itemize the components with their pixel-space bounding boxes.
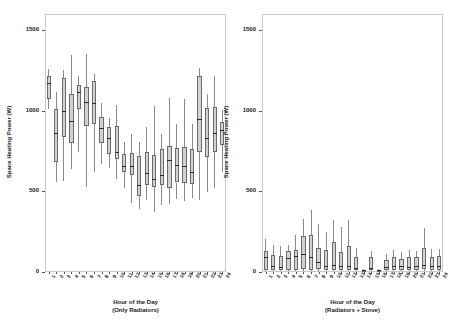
x-tick-label: 3 (282, 274, 289, 279)
x-tick-mark (288, 272, 289, 274)
box-plot-box (309, 235, 313, 270)
box-plot-median (279, 267, 283, 268)
x-tick-mark (379, 272, 380, 274)
whisker-upper (280, 246, 281, 256)
x-tick-mark (311, 272, 312, 274)
x-tick-mark (334, 272, 335, 274)
x-tick-mark (266, 272, 267, 274)
whisker-lower (326, 270, 327, 272)
box-plot-median (271, 266, 275, 267)
box-plot-median (354, 268, 358, 269)
whisker-lower (393, 270, 394, 272)
box-plot-box (414, 257, 418, 269)
x-axis-label-right-line1: Hour of the Day (330, 299, 375, 305)
x-tick-label: 24 (441, 271, 449, 279)
x-tick-mark (432, 272, 433, 274)
x-tick-mark (326, 272, 327, 274)
x-tick-mark (303, 272, 304, 274)
whisker-upper (265, 239, 266, 251)
box-plot-median (422, 265, 426, 266)
whisker-lower (439, 270, 440, 272)
whisker-upper (318, 224, 319, 248)
whisker-lower (409, 270, 410, 272)
whisker-upper (326, 232, 327, 250)
box-plot-median (407, 267, 411, 268)
whisker-lower (431, 270, 432, 272)
box-plot-median (264, 257, 268, 258)
x-tick-label: 8 (320, 274, 327, 279)
whisker-lower (318, 269, 319, 271)
x-tick-mark (364, 272, 365, 274)
whisker-upper (295, 235, 296, 250)
x-tick-label: 9 (328, 274, 335, 279)
whisker-lower (333, 270, 334, 272)
x-tick-mark (409, 272, 410, 274)
x-tick-mark (349, 272, 350, 274)
box-plot-median (369, 268, 373, 269)
y-tick-mark (259, 30, 262, 31)
whisker-lower (295, 270, 296, 272)
box-plot-median (294, 256, 298, 257)
whisker-lower (280, 270, 281, 272)
x-tick-mark (319, 272, 320, 274)
box-plot-box (301, 236, 305, 269)
whisker-upper (356, 248, 357, 257)
x-tick-label: 1 (267, 274, 274, 279)
y-tick-mark (259, 111, 262, 112)
box-plot-box (399, 259, 403, 269)
box-plot-median (430, 266, 434, 267)
whisker-lower (386, 270, 387, 272)
box-plot-box (392, 257, 396, 269)
x-tick-label: 5 (297, 274, 304, 279)
box-plot-box (286, 251, 290, 270)
x-tick-mark (439, 272, 440, 274)
x-tick-mark (417, 272, 418, 274)
whisker-lower (303, 269, 304, 271)
box-plot-median (339, 266, 343, 267)
whisker-lower (371, 270, 372, 272)
box-plot-median (347, 266, 351, 267)
y-axis-label-right: Space Heating Power (W) (223, 13, 229, 271)
whisker-upper (303, 219, 304, 236)
x-tick-label: 2 (275, 274, 282, 279)
box-plot-box (430, 257, 434, 270)
whisker-lower (311, 270, 312, 272)
x-tick-label: 4 (290, 274, 297, 279)
box-plot-median (301, 254, 305, 255)
box-plot-median (316, 262, 320, 263)
box-plot-median (324, 266, 328, 267)
whisker-upper (424, 228, 425, 248)
y-tick-label: 1000 (228, 107, 256, 113)
whisker-upper (401, 252, 402, 259)
y-tick-mark (259, 272, 262, 273)
whisker-upper (273, 245, 274, 255)
box-plot-box (271, 255, 275, 270)
x-tick-label: 6 (305, 274, 312, 279)
panel-radiators-plus-stove: Space Heating Power (W) Hour of the Day … (0, 0, 457, 324)
boxplot-figure: Space Heating Power (W) Hour of the Day … (0, 0, 457, 324)
box-plot-box (324, 250, 328, 269)
x-tick-mark (281, 272, 282, 274)
whisker-upper (439, 249, 440, 256)
x-tick-mark (386, 272, 387, 274)
x-tick-mark (273, 272, 274, 274)
box-plot-median (414, 266, 418, 267)
whisker-lower (273, 270, 274, 272)
whisker-upper (409, 250, 410, 257)
box-plot-box (437, 256, 441, 270)
whisker-upper (431, 249, 432, 256)
box-plot-median (309, 257, 313, 258)
box-plot-box (264, 251, 268, 270)
y-tick-mark (259, 191, 262, 192)
box-plot-median (437, 266, 441, 267)
y-tick-label: 1500 (228, 26, 256, 32)
x-tick-mark (356, 272, 357, 274)
whisker-upper (341, 227, 342, 252)
x-axis-label-right: Hour of the Day (Radiators + Stove) (262, 298, 443, 314)
whisker-lower (341, 270, 342, 272)
whisker-lower (348, 270, 349, 272)
whisker-upper (348, 220, 349, 246)
y-tick-label: 0 (228, 268, 256, 274)
box-plot-box (316, 248, 320, 269)
box-plot-box (339, 252, 343, 270)
